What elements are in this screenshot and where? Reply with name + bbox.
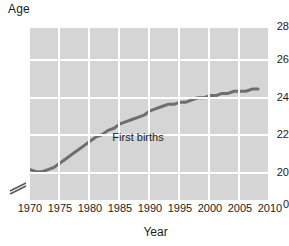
y-tick-label: 20 xyxy=(265,167,289,178)
gridline-horizontal xyxy=(30,172,270,174)
gridline-horizontal xyxy=(30,97,270,99)
gridline-horizontal xyxy=(30,26,270,28)
plot-area: First births xyxy=(30,26,270,200)
chart-container: Age First births 28 26 24 22 20 0 1970 1… xyxy=(0,0,289,246)
axis-break-icon xyxy=(8,181,30,195)
y-tick-label: 28 xyxy=(265,21,289,32)
x-tick-label: 2010 xyxy=(250,203,289,214)
gridline-horizontal xyxy=(30,59,270,61)
x-axis-title-text: Year xyxy=(143,225,167,239)
y-axis-title: Age xyxy=(8,2,30,16)
y-tick-label: 24 xyxy=(265,92,289,103)
x-axis-title: Year xyxy=(0,225,289,239)
y-tick-label: 26 xyxy=(265,54,289,65)
y-tick-label: 22 xyxy=(265,129,289,140)
series-annotation-first-births: First births xyxy=(112,131,163,143)
